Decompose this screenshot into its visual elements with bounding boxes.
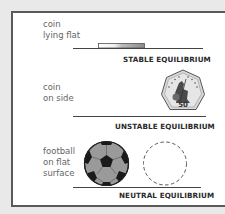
caption-neutral: NEUTRAL EQUILIBRIUM	[119, 191, 214, 200]
dashed-circle-ghost-icon	[142, 140, 188, 187]
caption-stable: STABLE EQUILIBRIUM	[123, 55, 211, 64]
ground-line-stable	[73, 48, 203, 49]
football-icon	[83, 140, 130, 187]
label-coin-lying-flat: coin lying flat	[43, 19, 80, 41]
label-line: surface	[43, 168, 75, 179]
label-football-on-flat-surface: football on flat surface	[43, 146, 75, 179]
label-line: on flat	[43, 157, 75, 168]
label-line: football	[43, 146, 75, 157]
ground-line-neutral	[73, 187, 201, 188]
label-line: coin	[43, 82, 74, 93]
label-line: coin	[43, 19, 80, 30]
label-line: lying flat	[43, 30, 80, 41]
coin-value: 50	[178, 101, 188, 109]
label-line: on side	[43, 93, 74, 104]
label-coin-on-side: coin on side	[43, 82, 74, 104]
caption-unstable: UNSTABLE EQUILIBRIUM	[115, 122, 215, 131]
ground-line-unstable	[73, 116, 206, 117]
fifty-pence-coin-icon: 50	[160, 69, 206, 115]
